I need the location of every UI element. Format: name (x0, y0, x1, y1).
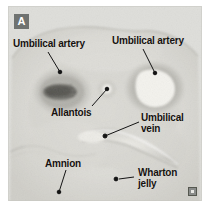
annotation-umbilical-vein: Umbilical vein (141, 112, 184, 134)
annotation-umbilical-artery-right: Umbilical artery (112, 35, 184, 46)
annotation-amnion: Amnion (45, 158, 81, 169)
annotation-wharton-jelly: Wharton jelly (138, 167, 177, 189)
figure-panel: A Umbilical artery Umbilical artery Alla… (0, 0, 209, 209)
annotation-allantois: Allantois (51, 107, 91, 118)
panel-letter-badge: A (14, 14, 29, 29)
watermark-icon (188, 187, 197, 196)
annotation-umbilical-artery-left: Umbilical artery (13, 38, 85, 49)
